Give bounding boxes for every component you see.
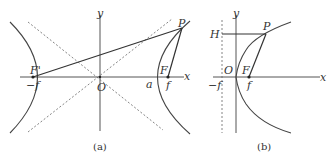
figure-b: y x O P F H f −f (b) — [208, 7, 327, 152]
label-F: F — [159, 64, 168, 77]
figure-a: y x O P F F' a f −f (a) — [10, 7, 191, 152]
label-F-prime: F' — [29, 64, 41, 77]
label-P: P — [262, 20, 271, 33]
label-x: x — [184, 70, 191, 83]
label-O: O — [224, 64, 233, 77]
segment-F-P — [249, 34, 266, 77]
origin-point — [99, 76, 101, 78]
label-f: f — [246, 79, 253, 92]
label-a: a — [146, 78, 153, 91]
label-minus-f: −f — [26, 79, 41, 92]
label-F: F — [241, 64, 250, 77]
asymptote-1 — [28, 22, 163, 130]
label-y: y — [232, 7, 240, 20]
label-x: x — [320, 71, 327, 84]
label-P: P — [177, 17, 186, 30]
label-f: f — [165, 79, 172, 92]
label-O: O — [97, 81, 106, 94]
caption-a: (a) — [93, 141, 107, 152]
label-minus-f: −f — [208, 79, 223, 92]
diagram-canvas: y x O P F F' a f −f (a) y x O P F H f −f… — [0, 0, 330, 161]
label-H: H — [209, 28, 220, 41]
label-y: y — [96, 7, 104, 20]
caption-b: (b) — [257, 141, 271, 152]
